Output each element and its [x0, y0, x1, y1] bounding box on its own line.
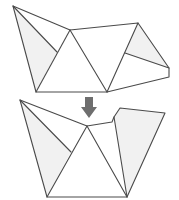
down-arrow-icon — [81, 97, 97, 118]
shaded-flap — [20, 100, 71, 197]
shaded-flap — [114, 108, 165, 197]
shaded-flap — [125, 23, 169, 68]
origami-diagram — [0, 0, 179, 200]
fold-step-after — [20, 100, 165, 197]
shaded-flap — [13, 6, 57, 92]
crease-line — [70, 30, 107, 92]
diagram-canvas — [0, 0, 179, 200]
fold-step-before — [13, 6, 169, 92]
crease-line — [107, 23, 138, 92]
